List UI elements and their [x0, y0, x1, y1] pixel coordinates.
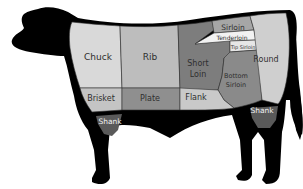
label-chuck: Chuck: [84, 52, 113, 62]
label-tenderloin: Tenderloin: [216, 34, 248, 41]
beef-cuts-diagram: Chuck Rib Sirloin Tenderloin Tip Sirloin…: [0, 0, 303, 189]
label-bottom-sirloin-2: Sirloin: [226, 81, 246, 89]
label-short-loin-2: Loin: [190, 70, 207, 79]
label-short-loin-1: Short: [187, 59, 208, 68]
label-tip-sirloin: Tip Sirloin: [230, 44, 256, 51]
label-front-shank: Shank: [98, 117, 122, 126]
label-bottom-sirloin-1: Bottom: [224, 72, 248, 80]
label-rib: Rib: [143, 52, 158, 62]
label-plate: Plate: [140, 94, 160, 103]
label-sirloin: Sirloin: [221, 23, 245, 32]
label-round: Round: [253, 55, 278, 64]
label-rear-shank: Shank: [250, 106, 274, 115]
label-flank: Flank: [185, 93, 207, 102]
label-brisket: Brisket: [87, 94, 115, 103]
